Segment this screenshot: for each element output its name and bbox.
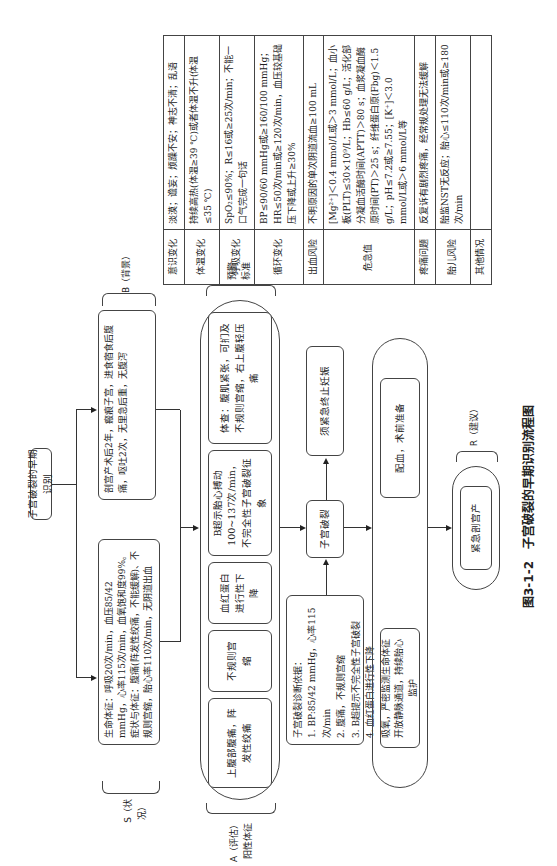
warning-row: 循环变化BP≤90/60 mmHg或≥160/100 mmHg；HR≤50次/m… [254,36,303,285]
situation-text: 生命体征：呼吸20次/min，血压85/42 mmHg，心率115次/min，血… [104,551,153,738]
warning-row: 出血风险不明原因的单次阴道流血≥100 mL [303,36,324,285]
background-box: 剖宫产术后2年，瘢痕子宫，进食宿食后腹痛，呕吐2次，无里急后重，无腹泻 [98,310,156,500]
monitor-action: 吸氧，严密监测生命体征开放静脉通道，持续胎心监护 [380,628,420,748]
warning-value: 胎监NST无反应；胎心≤110次/min或≥180次/min [436,36,471,230]
terminate-node: 须紧急终止妊娠 [306,346,344,456]
recommendation-node: 紧急剖宫产 [460,486,492,570]
figure-caption: 图3-1-2 子宫破裂的早期识别流程图 [520,188,539,608]
warning-value: 不明原因的单次阴道流血≥100 mL [303,36,324,230]
sb-merge [180,410,181,642]
warning-row: 其他情况 [470,36,491,285]
root-connector [52,484,76,485]
diagnosis-title: 子宫破裂诊断依据： [291,602,305,738]
warning-key: 出血风险 [303,230,324,285]
s-connector [76,677,92,678]
arrow-to-a [193,525,199,531]
assessment-brace-line [206,803,276,814]
warning-row: 胎儿风险胎监NST无反应；胎心≤110次/min或≥180次/min [436,36,471,285]
warning-key: 胎儿风险 [436,230,471,285]
recommendation-brace-line [456,451,498,462]
warning-value: [Mg²⁺]＜0.4 mmol/L或＞3 mmol/L；血小板(PLT)≤30×… [324,36,415,230]
situation-brace-label: S（状况） [122,794,150,828]
sign-2: 不规则宫缩 [208,630,272,692]
b-connector [76,409,92,410]
prepare-action: 配血，术前准备 [380,378,420,498]
diagnosis-item-1: 1. BP:85/42 mmHg，心率115次/min [305,602,334,738]
s-down-connector [160,641,180,642]
warning-key: 意识变化 [164,230,185,285]
background-brace-line [102,293,156,306]
sign-1: 上腹部腹痛，阵发性绞痛 [208,698,272,788]
arrow-to-terminate [323,458,329,464]
arrow-diag-to-rupture [323,559,329,565]
sb-bus [76,410,77,678]
sign-4: B超示胎心搏动100~137次/min，不完全性子宫破裂征象 [208,450,272,556]
sign-3: 血红蛋白进行性下降 [208,562,272,624]
rupture-to-actions [344,527,368,528]
b-down-connector [156,409,180,410]
diagnosis-item-3: 3. B超提示不完全性子宫破裂 [349,602,363,738]
warning-row: 呼吸变化SpO₂≤90%；R≤16或≥25次/min；不能一口气完成一句话 [219,36,254,285]
arrow-to-s [91,675,97,681]
a-to-rupture [280,527,302,528]
warning-row: 疼痛问题反复诉有剧烈疼痛，经常规处理无法缓解 [415,36,436,285]
diagnosis-item-2: 2. 腹痛，不规则宫缩 [334,602,348,738]
warning-key: 疼痛问题 [415,230,436,285]
background-brace-label: B（背景） [120,250,134,294]
actions-to-rec [428,527,448,528]
arrow-to-b [91,407,97,413]
sign-5: 体查：腹肌紧张，可扪及不规则宫缩，右上腹轻压痛 [208,312,272,444]
warning-value: SpO₂≤90%；R≤16或≥25次/min；不能一口气完成一句话 [219,36,254,230]
warning-key: 体温变化 [184,230,219,285]
warning-value [470,36,491,230]
situation-brace-line [102,781,160,794]
diagnosis-to-rupture [326,565,327,595]
warning-value: 淡漠；谵妄；烦躁不安；神志不清；乱语 [164,36,185,230]
warning-value: BP≤90/60 mmHg或≥160/100 mmHg；HR≤50次/min或≥… [254,36,303,230]
warning-value: 反复诉有剧烈疼痛，经常规处理无法缓解 [415,36,436,230]
warning-key: 其他情况 [470,230,491,285]
rupture-node: 子宫破裂 [306,500,344,558]
warning-key: 呼吸变化 [219,230,254,285]
warning-table: 意识变化淡漠；谵妄；烦躁不安；神志不清；乱语体温变化持续高热(体温≥39 ℃)或… [163,35,492,285]
assessment-brace-label-2: 阳性体征 [242,814,256,866]
recommendation-brace-label: R（建议） [468,400,482,450]
warning-value: 持续高热(体温≥39 ℃)或者体温不升(体温≤35 ℃) [184,36,219,230]
warning-row: 危急值[Mg²⁺]＜0.4 mmol/L或＞3 mmol/L；血小板(PLT)≤… [324,36,415,285]
warning-row: 意识变化淡漠；谵妄；烦躁不安；神志不清；乱语 [164,36,185,285]
assessment-brace-label-1: A（评估） [228,814,242,866]
diagnosis-box: 子宫破裂诊断依据： 1. BP:85/42 mmHg，心率115次/min 2.… [286,595,364,745]
warning-brace-line [206,285,276,296]
warning-key: 循环变化 [254,230,303,285]
background-text: 剖宫产术后2年，瘢痕子宫，进食宿食后腹痛，呕吐2次，无里急后重，无腹泻 [104,325,128,493]
situation-box: 生命体征：呼吸20次/min，血压85/42 mmHg，心率115次/min，血… [98,539,160,745]
warning-row: 体温变化持续高热(体温≥39 ℃)或者体温不升(体温≤35 ℃) [184,36,219,285]
warning-key: 危急值 [324,230,415,285]
a-connector [180,527,194,528]
root-node: 子宫破裂的早期识别 [30,448,52,520]
rupture-to-terminate [326,464,327,500]
